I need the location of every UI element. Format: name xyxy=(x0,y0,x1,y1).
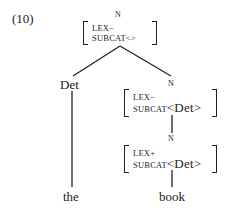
n-left-bracket xyxy=(124,89,129,117)
root-category: N xyxy=(115,11,121,19)
n-category: N xyxy=(168,80,174,88)
root-subcat-value: <> xyxy=(126,33,136,43)
lexical-n-category: N xyxy=(168,135,174,143)
n-lex-label: LEX xyxy=(133,92,150,102)
lexical-n-lex-label: LEX xyxy=(133,148,150,158)
root-subcat-label: SUBCAT xyxy=(92,33,126,43)
lexical-n-lex-value: + xyxy=(150,148,155,158)
n-right-bracket xyxy=(212,89,217,117)
example-number: (10) xyxy=(12,12,34,25)
root-subcat-feature: SUBCAT<> xyxy=(92,34,136,43)
lexical-n-subcat-label: SUBCAT xyxy=(133,160,167,170)
lexical-n-right-bracket xyxy=(212,145,217,173)
lexical-n-left-bracket xyxy=(124,145,129,173)
edge-root-to-det xyxy=(73,46,120,76)
word-the: the xyxy=(63,190,79,203)
word-book: book xyxy=(159,190,185,203)
n-subcat-feature: SUBCAT<Det> xyxy=(133,103,201,114)
lexical-n-subcat-value: <Det> xyxy=(167,156,201,171)
n-subcat-label: SUBCAT xyxy=(133,104,167,114)
n-subcat-value: <Det> xyxy=(167,100,201,115)
n-lex-value: − xyxy=(150,92,155,102)
edge-root-to-n xyxy=(120,46,171,76)
lexical-n-subcat-feature: SUBCAT<Det> xyxy=(133,159,201,170)
root-lex-label: LEX xyxy=(92,23,109,33)
root-lex-feature: LEX− xyxy=(92,24,114,33)
lexical-n-lex-feature: LEX+ xyxy=(133,149,155,158)
det-category: Det xyxy=(60,78,79,91)
root-lex-value: − xyxy=(109,23,114,33)
n-lex-feature: LEX− xyxy=(133,93,155,102)
root-left-bracket xyxy=(83,21,88,45)
root-right-bracket xyxy=(152,21,157,45)
